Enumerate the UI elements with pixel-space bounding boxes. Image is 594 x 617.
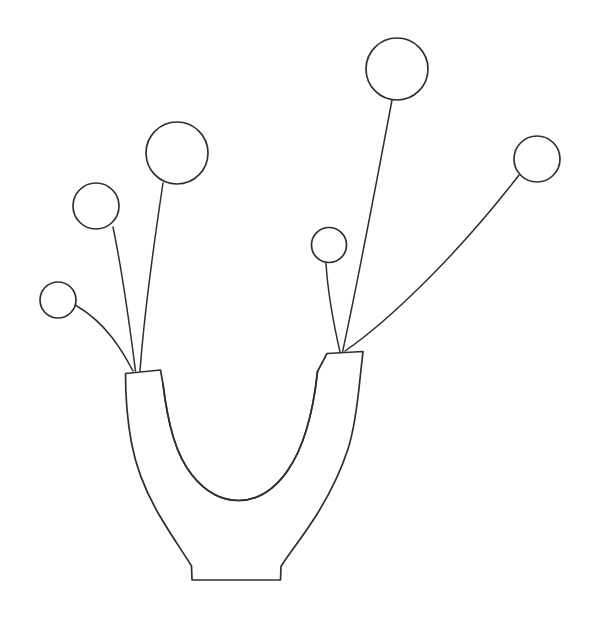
illustration-canvas <box>0 0 594 617</box>
bloom-flower-1 <box>40 282 76 318</box>
bloom-flower-6 <box>514 136 560 182</box>
bloom-flower-2 <box>73 183 119 229</box>
canvas-background <box>0 0 594 617</box>
bloom-flower-4 <box>312 228 347 263</box>
line-drawing-svg <box>0 0 594 617</box>
bloom-flower-5 <box>366 38 428 100</box>
bloom-flower-3 <box>146 122 208 184</box>
